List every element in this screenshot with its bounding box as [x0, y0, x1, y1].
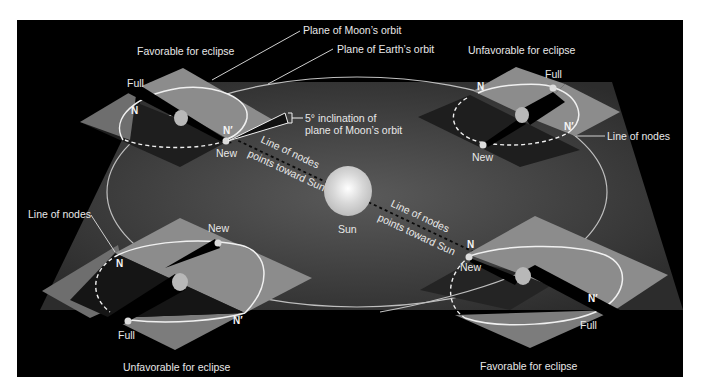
caption-top-left: Favorable for eclipse — [137, 45, 235, 57]
sun — [324, 166, 372, 216]
new-moon — [466, 254, 473, 261]
eclipse-seasons-diagram: Sun Line of nodes points toward Sun Line… — [0, 0, 703, 390]
full-moon — [550, 85, 557, 92]
full-label: Full — [545, 68, 562, 80]
full-label: Full — [127, 77, 144, 89]
new-moon — [480, 142, 487, 149]
node-n-prime-label: N′ — [223, 125, 233, 136]
node-n-label: N — [131, 105, 138, 116]
caption-top-right: Unfavorable for eclipse — [468, 44, 576, 56]
node-n-prime-label: N′ — [233, 315, 243, 326]
new-label: New — [208, 222, 229, 234]
full-label: Full — [118, 329, 135, 341]
node-n-prime-label: N′ — [564, 121, 574, 132]
earth — [515, 107, 529, 123]
line-of-nodes-label: Line of nodes — [28, 208, 91, 220]
new-label: New — [216, 147, 237, 159]
inclination-label-1: 5° inclination of — [305, 112, 376, 124]
node-n-label: N — [477, 81, 484, 92]
full-moon — [125, 318, 132, 325]
plane-moon-orbit-label: Plane of Moon’s orbit — [303, 24, 402, 36]
inclination-label-2: plane of Moon’s orbit — [305, 124, 402, 136]
node-n-prime-label: N′ — [588, 293, 598, 304]
earth — [172, 273, 188, 291]
plane-earth-orbit-label: Plane of Earth’s orbit — [337, 43, 434, 55]
node-n-label: N — [116, 258, 123, 269]
line-of-nodes-label: Line of nodes — [607, 130, 670, 142]
sun-label: Sun — [338, 223, 357, 235]
new-label: New — [472, 151, 493, 163]
caption-bottom-left: Unfavorable for eclipse — [123, 361, 231, 373]
new-moon — [215, 240, 222, 247]
node-n-label: N — [467, 239, 474, 250]
full-label: Full — [580, 319, 597, 331]
new-label: New — [460, 261, 481, 273]
earth — [174, 110, 188, 126]
earth — [515, 267, 531, 285]
caption-bottom-right: Favorable for eclipse — [480, 360, 578, 372]
